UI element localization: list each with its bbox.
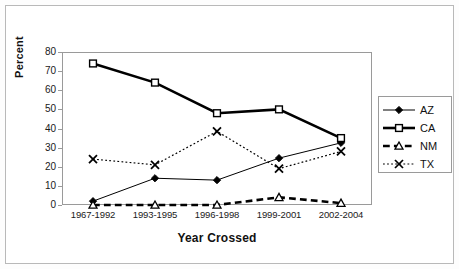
y-tick-label: 40 (30, 123, 56, 134)
y-tick-label: 20 (30, 161, 56, 172)
y-tick-label: 0 (30, 199, 56, 210)
series-line-az (93, 143, 341, 201)
series-ca (90, 60, 345, 141)
filled-diamond-marker-icon (395, 106, 402, 113)
x-cross-marker-icon (89, 155, 97, 163)
y-axis-title: Percent (10, 12, 28, 102)
series-az (89, 139, 344, 205)
filled-diamond-marker-icon (213, 177, 220, 184)
legend-swatch-nm (379, 137, 419, 155)
y-tick-mark (58, 205, 62, 206)
x-cross-marker-icon (379, 155, 419, 173)
x-tick-label: 2002-2004 (302, 209, 380, 220)
x-cross-marker-icon (213, 127, 221, 135)
open-triangle-marker-icon (379, 137, 419, 155)
x-cross-marker-icon (275, 165, 283, 173)
x-cross-marker-icon (337, 147, 345, 155)
open-square-marker-icon (276, 106, 283, 113)
series-line-tx (93, 131, 341, 168)
series-tx (89, 127, 345, 172)
x-cross-marker-icon (151, 161, 159, 169)
filled-diamond-marker-icon (379, 101, 419, 119)
legend-label-nm: NM (420, 137, 437, 155)
y-tick-label: 30 (30, 142, 56, 153)
open-square-marker-icon (214, 110, 221, 117)
legend-swatch-ca (379, 119, 419, 137)
legend-item-nm: NM (379, 137, 451, 155)
open-square-marker-icon (338, 135, 345, 142)
chart-figure: Percent 80706050403020100 1967-19921993-… (0, 0, 459, 269)
y-tick-label: 80 (30, 46, 56, 57)
filled-diamond-marker-icon (275, 155, 282, 162)
y-tick-label: 70 (30, 65, 56, 76)
open-square-marker-icon (152, 79, 159, 86)
series-line-ca (93, 63, 341, 138)
y-tick-label: 50 (30, 103, 56, 114)
y-tick-label: 60 (30, 84, 56, 95)
legend-swatch-az (379, 101, 419, 119)
legend-item-az: AZ (379, 101, 451, 119)
legend-label-az: AZ (420, 101, 434, 119)
plot-area (62, 52, 372, 205)
open-square-marker-icon (379, 119, 419, 137)
legend-item-ca: CA (379, 119, 451, 137)
open-square-marker-icon (396, 125, 403, 132)
open-square-marker-icon (90, 60, 97, 67)
chart-legend: AZCANMTX (378, 96, 452, 173)
legend-swatch-tx (379, 155, 419, 173)
legend-label-ca: CA (420, 119, 435, 137)
filled-diamond-marker-icon (151, 175, 158, 182)
y-tick-label: 10 (30, 180, 56, 191)
x-axis-title: Year Crossed (62, 231, 372, 245)
legend-label-tx: TX (420, 155, 434, 173)
legend-item-tx: TX (379, 155, 451, 173)
